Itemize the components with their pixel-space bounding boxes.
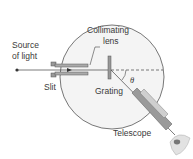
label-grating: Grating	[95, 86, 123, 96]
label-slit: Slit	[44, 82, 56, 92]
grating	[108, 56, 111, 79]
label-source-2: of light	[12, 51, 38, 61]
label-telescope: Telescope	[113, 128, 152, 138]
label-collimating-2: lens	[103, 36, 119, 46]
label-source-1: Source	[12, 40, 39, 50]
eye-icon	[170, 135, 190, 155]
label-collimating-1: Collimating	[87, 25, 129, 35]
label-theta: θ	[130, 75, 134, 85]
spectrometer-diagram: Source of light Collimating lens Slit Gr…	[0, 0, 193, 159]
